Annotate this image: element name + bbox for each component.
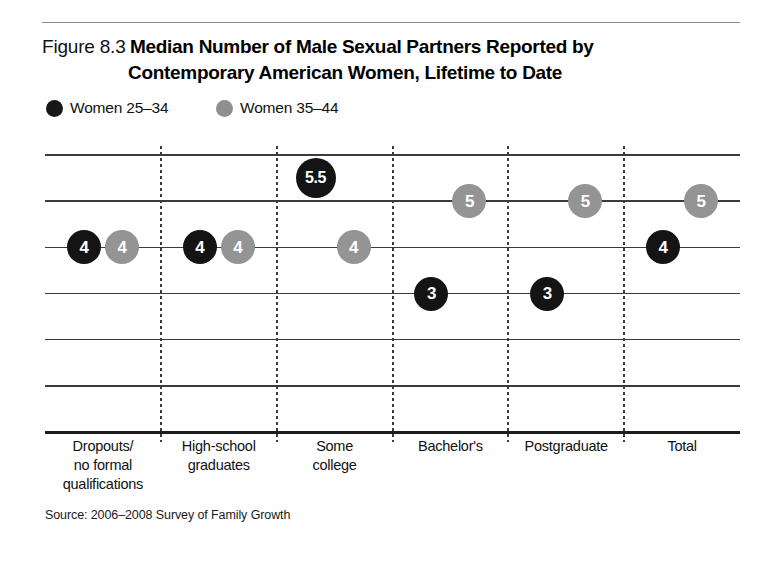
category-separator [392,146,394,442]
page-title-continued: Contemporary American Women, Lifetime to… [128,62,562,83]
x-axis-labels: Dropouts/no formalqualificationsHigh-sch… [45,437,740,499]
category-separator [160,146,162,442]
figure-number: Figure 8.3 [42,36,126,57]
chart-legend: Women 25–34 Women 35–44 [46,99,338,117]
data-point-marker: 5 [452,184,486,218]
data-point-value: 5.5 [305,170,326,186]
x-axis-label-line: Postgraduate [501,437,631,456]
data-point-value: 3 [427,285,436,302]
category-separator [623,146,625,442]
data-point-marker: 5 [684,184,718,218]
data-point-marker: 5.5 [296,158,336,198]
x-axis-label-line: no formal [38,456,168,475]
x-axis-label-line: Bachelor's [385,437,515,456]
x-axis-label: Bachelor's [385,437,515,456]
data-point-value: 5 [465,193,474,210]
data-point-marker: 3 [530,277,564,311]
category-separator [507,146,509,442]
legend-swatch-icon-gray [216,100,233,117]
legend-swatch-icon-black [46,100,63,117]
data-point-marker: 4 [105,230,139,264]
data-point-marker: 4 [67,230,101,264]
data-point-marker: 5 [568,184,602,218]
x-axis-label-line: Dropouts/ [38,437,168,456]
page-title: Median Number of Male Sexual Partners Re… [130,36,594,57]
data-point-value: 5 [697,193,706,210]
x-axis-label-line: qualifications [38,475,168,494]
category-separator [276,146,278,442]
figure-title-block: Figure 8.3 Median Number of Male Sexual … [42,34,742,86]
data-point-value: 4 [79,239,88,256]
data-point-value: 4 [659,239,668,256]
data-point-value: 4 [233,239,242,256]
data-point-value: 4 [117,239,126,256]
data-point-value: 3 [543,285,552,302]
data-point-marker: 4 [221,230,255,264]
legend-item-women-35-44: Women 35–44 [216,99,338,117]
legend-label-women-25-34: Women 25–34 [70,99,168,117]
x-axis-label: High-schoolgraduates [154,437,284,475]
data-point-value: 4 [195,239,204,256]
legend-label-women-35-44: Women 35–44 [240,99,338,117]
chart-plot-area: 445.5334444555 [45,150,740,434]
x-axis-label-line: college [270,456,400,475]
x-axis-label-line: High-school [154,437,284,456]
x-axis-label: Dropouts/no formalqualifications [38,437,168,494]
data-point-value: 5 [581,193,590,210]
legend-item-women-25-34: Women 25–34 [46,99,216,117]
data-point-marker: 4 [337,230,371,264]
x-axis-label: Somecollege [270,437,400,475]
x-axis-label-line: Some [270,437,400,456]
x-axis-label: Postgraduate [501,437,631,456]
x-axis-label-line: Total [617,437,747,456]
data-point-marker: 4 [183,230,217,264]
data-point-marker: 3 [414,277,448,311]
figure-container: Figure 8.3 Median Number of Male Sexual … [0,0,780,576]
top-divider [42,22,740,23]
title-line-2: Contemporary American Women, Lifetime to… [42,60,742,86]
x-axis-label-line: graduates [154,456,284,475]
data-point-marker: 4 [646,230,680,264]
source-note: Source: 2006–2008 Survey of Family Growt… [45,508,290,522]
x-axis-label: Total [617,437,747,456]
title-line-1: Figure 8.3 Median Number of Male Sexual … [42,34,742,60]
data-point-value: 4 [349,239,358,256]
